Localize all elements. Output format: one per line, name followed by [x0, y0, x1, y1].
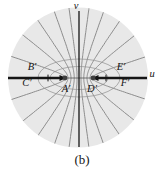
figure-caption: (b) — [74, 153, 89, 166]
figure-b: v u B′ C′ A′ D′ E′ F′ (b) — [0, 0, 159, 169]
focus-dot — [63, 76, 68, 81]
point-label-b-prime: B′ — [28, 62, 37, 73]
u-axis-label: u — [149, 69, 154, 80]
point-label-d-prime: D′ — [87, 84, 97, 95]
v-axis-label: v — [74, 1, 79, 12]
focus-dot — [91, 76, 96, 81]
point-label-e-prime: E′ — [117, 62, 126, 73]
point-label-c-prime: C′ — [22, 78, 31, 89]
point-label-f-prime: F′ — [121, 78, 130, 89]
point-label-a-prime: A′ — [62, 84, 71, 95]
